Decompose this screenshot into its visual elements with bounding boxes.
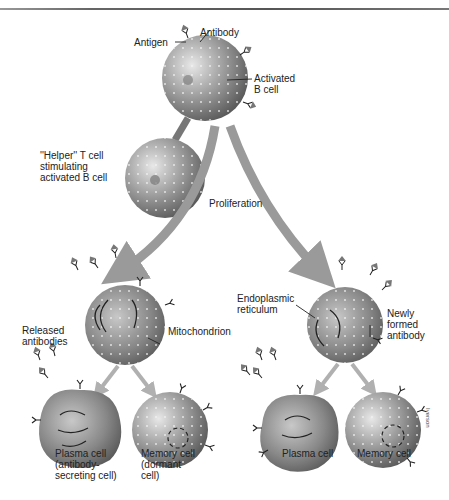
diagram-canvas: Antigen Antibody Activated B cell ''Help… [0,0,449,500]
label-activated-b-cell: Activated B cell [254,73,295,95]
label-plasma-cell-right: Plasma cell [282,448,333,459]
label-helper-t-cell: ''Helper'' T cell stimulating activated … [40,150,107,183]
label-newly-formed-antibody: Newly formed antibody [387,308,425,341]
proliferating-cell-left [68,244,174,365]
label-proliferation: Proliferation [209,198,262,209]
label-released-antibodies: Released antibodies [22,325,68,347]
activated-b-cell [162,23,258,121]
label-mitochondrion: Mitochondrion [168,326,231,337]
label-endoplasmic-reticulum: Endoplasmic reticulum [237,293,294,315]
proliferating-cell-right [307,256,395,363]
illustration [0,0,449,500]
label-memory-cell-right: Memory cell [357,448,411,459]
label-plasma-cell-left: Plasma cell (antibody- secreting cell) [55,448,117,481]
label-antigen: Antigen [134,37,168,48]
helper-t-cell [125,138,205,218]
label-antibody: Antibody [200,27,239,38]
artist-signature: Iverson [425,408,431,428]
label-memory-cell-left: Memory cell (dormant cell) [141,448,195,481]
